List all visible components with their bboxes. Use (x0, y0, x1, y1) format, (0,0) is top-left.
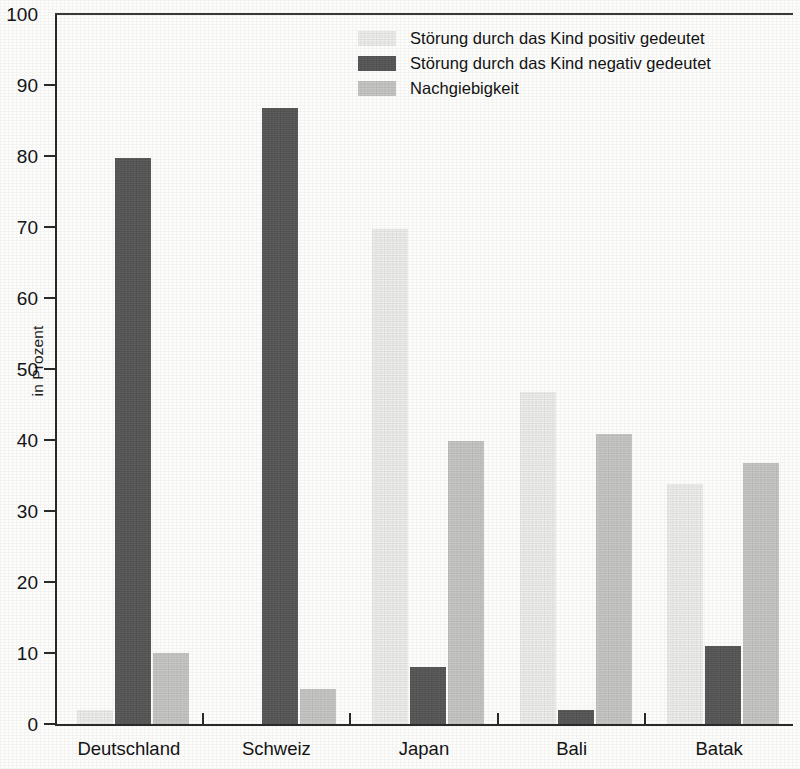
bar (115, 158, 151, 724)
y-axis-tick-label: 40 (0, 431, 38, 450)
legend-item[interactable]: Nachgiebigkeit (358, 76, 711, 101)
y-axis-tick-label: 100 (0, 5, 38, 24)
x-axis-line (55, 724, 793, 726)
y-axis-tick (44, 510, 55, 512)
bar (705, 646, 741, 724)
y-axis-tick (44, 84, 55, 86)
legend-swatch-icon (358, 81, 396, 96)
y-axis-tick (44, 652, 55, 654)
legend-item-label: Störung durch das Kind positiv gedeutet (410, 29, 705, 48)
x-axis-category-label: Japan (399, 738, 449, 760)
legend-item-label: Nachgiebigkeit (410, 79, 519, 98)
y-axis-tick-label: 0 (0, 715, 38, 734)
x-axis-category-label: Deutschland (77, 738, 180, 760)
plot-area: 0102030405060708090100 DeutschlandSchwei… (55, 14, 793, 726)
y-axis-tick (55, 13, 793, 15)
x-axis-tick (349, 713, 351, 726)
bar (300, 689, 336, 725)
y-axis-tick (44, 723, 55, 725)
x-axis-category-label: Batak (696, 738, 743, 760)
y-axis-tick (44, 297, 55, 299)
bar (558, 710, 594, 724)
x-axis-tick (202, 713, 204, 726)
chart-legend: Störung durch das Kind positiv gedeutetS… (358, 26, 711, 101)
x-axis-tick (497, 713, 499, 726)
y-axis-tick-label: 50 (0, 360, 38, 379)
legend-item[interactable]: Störung durch das Kind negativ gedeutet (358, 51, 711, 76)
legend-item[interactable]: Störung durch das Kind positiv gedeutet (358, 26, 711, 51)
y-axis-tick (44, 226, 55, 228)
bar (448, 441, 484, 724)
legend-item-label: Störung durch das Kind negativ gedeutet (410, 54, 711, 73)
y-axis-tick-label: 10 (0, 644, 38, 663)
legend-swatch-icon (358, 31, 396, 46)
x-axis-category-label: Schweiz (242, 738, 311, 760)
bar (77, 710, 113, 724)
bar-chart-figure: in Prozent 0102030405060708090100 Deutsc… (0, 0, 800, 769)
y-axis-tick (44, 368, 55, 370)
bar (520, 392, 556, 724)
y-axis-line (55, 14, 57, 726)
x-axis-category-label: Bali (556, 738, 587, 760)
bar (262, 108, 298, 724)
bar (372, 229, 408, 724)
y-axis-tick-label: 90 (0, 76, 38, 95)
x-axis-tick (644, 713, 646, 726)
y-axis-tick-label: 60 (0, 289, 38, 308)
bar (410, 667, 446, 724)
y-axis-tick-label: 80 (0, 147, 38, 166)
bar (596, 434, 632, 724)
y-axis-tick-label: 30 (0, 502, 38, 521)
bar (153, 653, 189, 724)
bar (743, 463, 779, 724)
y-axis-tick (44, 155, 55, 157)
y-axis-tick (44, 581, 55, 583)
y-axis-tick-label: 20 (0, 573, 38, 592)
y-axis-tick-label: 70 (0, 218, 38, 237)
bar (667, 484, 703, 724)
legend-swatch-icon (358, 56, 396, 71)
y-axis-tick (44, 439, 55, 441)
